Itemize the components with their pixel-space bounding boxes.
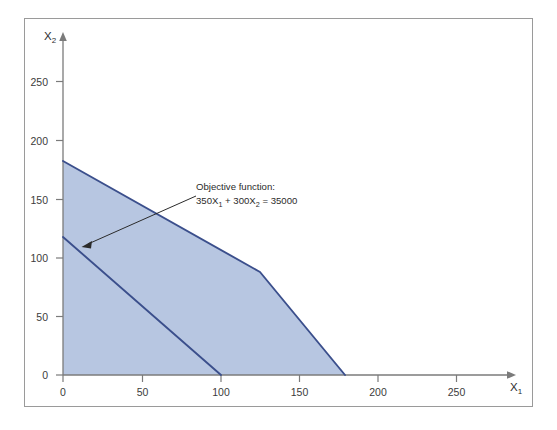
annotation-term-3: = 35000 bbox=[260, 195, 298, 206]
x-tick-label-200: 200 bbox=[358, 386, 398, 398]
figure-container: 0 50 100 150 200 250 0 50 100 150 200 25… bbox=[0, 0, 557, 430]
annotation-line-1: Objective function: bbox=[196, 180, 297, 194]
y-tick-label-200: 200 bbox=[18, 135, 48, 147]
x-axis-title-subscript: 1 bbox=[518, 387, 522, 396]
objective-function-annotation: Objective function: 350X1 + 300X2 = 3500… bbox=[196, 180, 297, 211]
x-axis-title-text: X bbox=[510, 381, 518, 393]
y-axis-title-text: X bbox=[44, 30, 52, 42]
x-axis-title: X1 bbox=[510, 381, 522, 396]
y-axis-arrowhead bbox=[59, 32, 67, 41]
x-tick-label-50: 50 bbox=[123, 386, 163, 398]
y-tick-label-100: 100 bbox=[18, 252, 48, 264]
y-axis-ticks bbox=[56, 82, 63, 376]
x-tick-label-0: 0 bbox=[43, 386, 83, 398]
y-axis-title-subscript: 2 bbox=[52, 36, 56, 45]
x-axis-ticks bbox=[63, 375, 457, 382]
plot-canvas bbox=[0, 0, 557, 430]
y-axis-title: X2 bbox=[44, 30, 56, 45]
x-tick-label-150: 150 bbox=[280, 386, 320, 398]
x-tick-label-250: 250 bbox=[437, 386, 477, 398]
y-tick-label-250: 250 bbox=[18, 76, 48, 88]
y-tick-label-50: 50 bbox=[18, 311, 48, 323]
annotation-line-2: 350X1 + 300X2 = 35000 bbox=[196, 194, 297, 211]
annotation-term-2: + 300X bbox=[222, 195, 255, 206]
y-tick-label-150: 150 bbox=[18, 194, 48, 206]
x-tick-label-100: 100 bbox=[201, 386, 241, 398]
annotation-term-1: 350X bbox=[196, 195, 218, 206]
y-tick-label-0: 0 bbox=[18, 369, 48, 381]
x-axis-arrowhead bbox=[507, 371, 516, 379]
